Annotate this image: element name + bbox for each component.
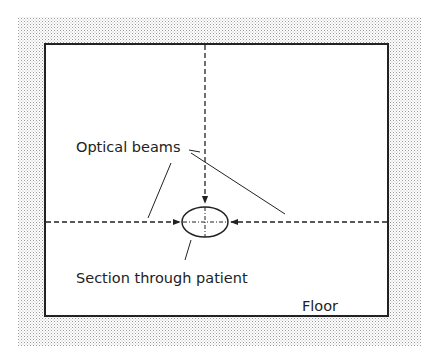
label-section-through-patient: Section through patient xyxy=(76,270,248,286)
diagram-canvas: Optical beams Section through patient Fl… xyxy=(0,0,436,361)
label-floor: Floor xyxy=(302,298,338,314)
label-optical-beams: Optical beams xyxy=(76,139,181,155)
